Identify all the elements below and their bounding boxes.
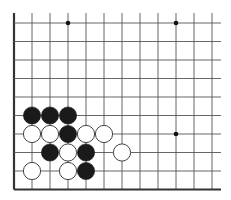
white-stone[interactable] (23, 162, 40, 179)
black-stone[interactable] (41, 144, 58, 161)
black-stone[interactable] (59, 125, 76, 142)
white-stone[interactable] (59, 144, 76, 161)
white-stone[interactable] (41, 125, 58, 142)
stones-layer[interactable] (23, 107, 130, 180)
white-stone[interactable] (95, 125, 112, 142)
board-grid (14, 13, 221, 190)
black-stone[interactable] (41, 107, 58, 124)
star-point-icon (174, 21, 179, 26)
star-point-icon (174, 132, 179, 137)
white-stone[interactable] (77, 125, 94, 142)
black-stone[interactable] (77, 144, 94, 161)
star-point-icon (66, 21, 71, 26)
black-stone[interactable] (59, 107, 76, 124)
white-stone[interactable] (23, 125, 40, 142)
go-board[interactable] (0, 0, 231, 200)
white-stone[interactable] (59, 162, 76, 179)
black-stone[interactable] (23, 107, 40, 124)
white-stone[interactable] (113, 144, 130, 161)
black-stone[interactable] (77, 162, 94, 179)
